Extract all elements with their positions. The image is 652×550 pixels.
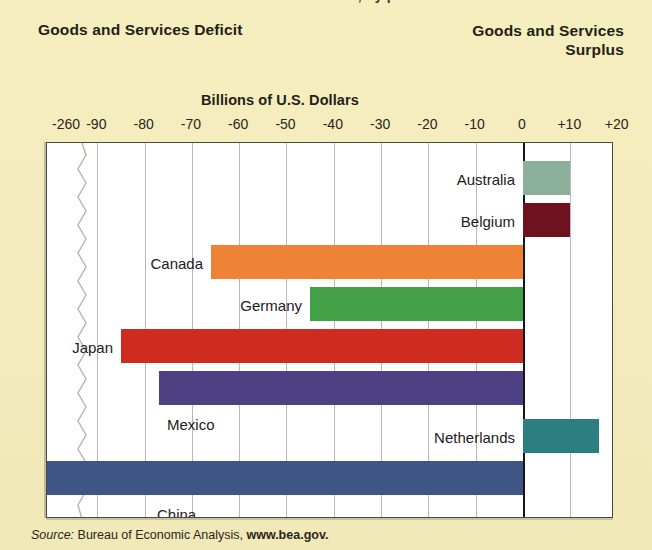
bar-label-china: China: [157, 507, 196, 518]
x-tick-minus30: -30: [370, 116, 390, 132]
source-url: www.bea.gov.: [246, 528, 328, 542]
surplus-heading: Goods and Services Surplus: [414, 21, 624, 59]
plot-area: AustraliaBelgiumCanadaGermanyJapanMexico…: [46, 142, 613, 518]
bar-japan[interactable]: [121, 329, 523, 363]
surplus-heading-line1: Goods and Services: [472, 22, 624, 39]
axis-title: Billions of U.S. Dollars: [0, 92, 560, 108]
x-tick-minus90: -90: [86, 116, 106, 132]
surplus-heading-line2: Surplus: [565, 41, 624, 58]
x-tick-minus260: -260: [52, 116, 80, 132]
x-tick-minus20: -20: [417, 116, 437, 132]
bar-germany[interactable]: [310, 287, 523, 321]
x-tick-minus50: -50: [275, 116, 295, 132]
x-tick-minus40: -40: [323, 116, 343, 132]
bar-label-australia: Australia: [47, 172, 515, 187]
bar-australia[interactable]: [523, 161, 570, 195]
x-tick-0: 0: [518, 116, 526, 132]
bar-mexico[interactable]: [159, 371, 523, 405]
x-tick-minus10: -10: [465, 116, 485, 132]
bar-label-netherlands: Netherlands: [47, 430, 515, 445]
bar-netherlands[interactable]: [523, 419, 599, 453]
source-note: Source: Bureau of Economic Analysis, www…: [31, 528, 328, 542]
plot-area-wrapper: AustraliaBelgiumCanadaGermanyJapanMexico…: [44, 140, 615, 520]
gridline-10: [570, 143, 571, 517]
x-tick-plus20: +20: [605, 116, 629, 132]
deficit-heading: Goods and Services Deficit: [38, 21, 243, 39]
source-label: Source:: [31, 528, 74, 542]
bar-label-germany: Germany: [47, 298, 302, 313]
x-tick-minus60: -60: [228, 116, 248, 132]
source-text: Bureau of Economic Analysis,: [78, 528, 243, 542]
clipped-caption-strip: U.S. Trade in Goods and Services, by par…: [0, 0, 652, 11]
bar-label-canada: Canada: [47, 256, 203, 271]
bar-canada[interactable]: [211, 245, 523, 279]
x-tick-minus70: -70: [181, 116, 201, 132]
bar-label-japan: Japan: [47, 340, 113, 355]
clipped-caption-text: U.S. Trade in Goods and Services, by par…: [128, 0, 436, 3]
zero-axis-line: [523, 143, 525, 517]
x-tick-minus80: -80: [133, 116, 153, 132]
bar-belgium[interactable]: [523, 203, 570, 237]
x-tick-plus10: +10: [557, 116, 581, 132]
bar-china[interactable]: [47, 461, 523, 495]
x-axis-tick-labels: -260-90-80-70-60-50-40-30-20-100+10+20: [0, 116, 652, 134]
bar-label-belgium: Belgium: [47, 214, 515, 229]
